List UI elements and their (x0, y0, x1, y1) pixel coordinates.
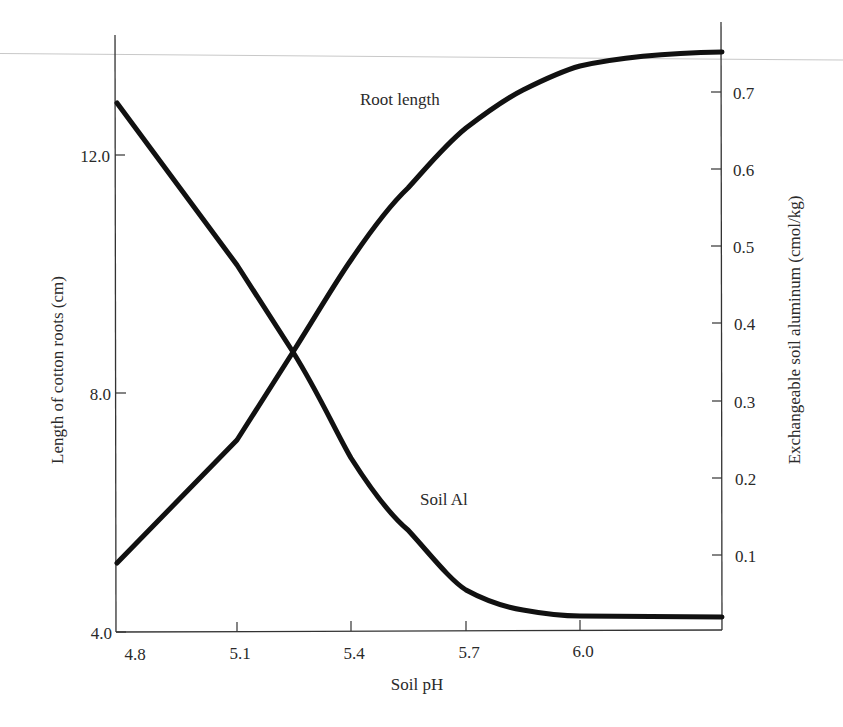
soil-al-curve (117, 103, 722, 617)
x-tick-label: 4.8 (124, 645, 145, 664)
x-tick-label: 6.0 (572, 642, 593, 661)
x-tick-label: 5.7 (458, 643, 480, 662)
x-axis-title: Soil pH (391, 675, 443, 694)
y2-tick-label: 0.1 (735, 547, 756, 566)
y2-tick-label: 0.6 (733, 161, 754, 180)
y-tick-label: 8.0 (90, 385, 111, 404)
root-length-label: Root length (360, 90, 440, 109)
x-axis (116, 630, 722, 632)
y2-tick-label: 0.7 (733, 84, 755, 103)
x-tick-label: 5.1 (229, 644, 250, 663)
right-y-ticks: 0.7 0.6 0.5 0.4 0.3 0.2 0.1 (711, 84, 756, 566)
chart: 4.0 8.0 12.0 4.8 5.1 5.4 5.7 6.0 0.7 0.6… (0, 0, 843, 727)
y-axis-title: Length of cotton roots (cm) (48, 276, 67, 464)
left-y-ticks: 4.0 8.0 12.0 (80, 147, 126, 643)
y2-tick-label: 0.4 (734, 315, 756, 334)
y2-axis-title: Exchangeable soil aluminum (cmol/kg) (785, 196, 804, 465)
y-tick-label: 12.0 (80, 147, 110, 166)
y2-tick-label: 0.5 (733, 238, 754, 257)
soil-al-label: Soil Al (420, 490, 468, 509)
y2-tick-label: 0.2 (735, 470, 756, 489)
y-tick-label: 4.0 (91, 624, 112, 643)
left-y-axis (115, 35, 116, 632)
x-ticks: 4.8 5.1 5.4 5.7 6.0 (124, 620, 593, 664)
y2-tick-label: 0.3 (734, 393, 755, 412)
root-length-curve (117, 52, 722, 563)
x-tick-label: 5.4 (343, 644, 365, 663)
right-y-axis (721, 22, 722, 630)
